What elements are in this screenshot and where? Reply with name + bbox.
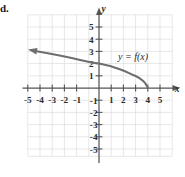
x-axis: [23, 85, 181, 91]
y-tick-label: 1: [89, 71, 94, 81]
y-tick-label: 4: [89, 35, 94, 45]
x-tick-label: -5: [24, 95, 32, 105]
y-tick-label: -1: [90, 96, 98, 106]
function-label: y = f(x): [117, 51, 149, 63]
y-tick-label: 5: [89, 22, 94, 32]
x-tick-label: 3: [133, 95, 138, 105]
x-axis-label: x: [174, 84, 180, 94]
x-tick-label: -3: [48, 95, 56, 105]
y-tick-label: -4: [90, 132, 98, 142]
y-axis-label: y: [100, 4, 106, 14]
grid-lines: [28, 15, 172, 157]
x-tick-label: -2: [61, 95, 69, 105]
figure-container: d.: [0, 0, 185, 177]
x-tick-label: 5: [158, 95, 163, 105]
y-tick-label: -3: [90, 120, 98, 130]
y-tick-label: -5: [90, 145, 98, 155]
y-tick-label: 2: [89, 59, 94, 69]
x-tick-label: -4: [36, 95, 44, 105]
x-tick-label: 2: [121, 95, 126, 105]
y-tick-label: 3: [89, 47, 94, 57]
x-tick-label: -1: [73, 95, 81, 105]
graph-svg: -5 -4 -3 -2 -1 1 2 3 4 5 5 4 3 2 1 -1 -2…: [0, 0, 185, 177]
x-tick-label: 4: [146, 95, 151, 105]
y-tick-label: -2: [90, 108, 98, 118]
x-tick-label: 1: [109, 95, 114, 105]
